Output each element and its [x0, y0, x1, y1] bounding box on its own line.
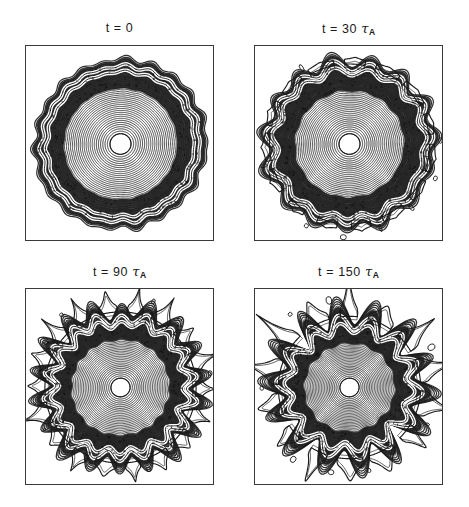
title-prefix: t =: [93, 265, 113, 279]
panel-title-panel-t0: t = 0: [25, 22, 214, 35]
contour-canvas-panel-t0: [26, 46, 214, 241]
contour-figure: t = 0t = 30 τAt = 90 τAt = 150 τA: [0, 0, 469, 507]
contour-canvas-panel-t150: [255, 289, 443, 485]
inner-core-panel-t90: [111, 378, 130, 397]
plot-frame-panel-t150: [254, 288, 443, 485]
title-prefix: t =: [106, 21, 126, 35]
title-prefix: t =: [322, 22, 342, 36]
inner-core-panel-t150: [340, 378, 359, 397]
title-unit-subscript: A: [140, 270, 146, 280]
title-unit-tau: τ: [132, 264, 140, 279]
title-unit-tau: τ: [361, 21, 369, 36]
inner-core-panel-t0: [110, 134, 131, 155]
contour-canvas-panel-t30: [255, 46, 443, 241]
panel-title-panel-t90: t = 90 τA: [25, 265, 214, 280]
title-unit-subscript: A: [369, 27, 375, 37]
title-value: 150: [338, 265, 361, 279]
title-unit-subscript: A: [373, 270, 379, 280]
plot-frame-panel-t30: [254, 45, 443, 241]
title-value: 0: [126, 21, 134, 35]
inner-core-panel-t30: [339, 134, 360, 155]
plot-frame-panel-t0: [25, 45, 214, 241]
contour-canvas-panel-t90: [26, 289, 214, 485]
title-prefix: t =: [318, 265, 338, 279]
title-unit-tau: τ: [365, 264, 373, 279]
panel-title-panel-t30: t = 30 τA: [254, 22, 443, 37]
title-value: 30: [342, 22, 357, 36]
plot-frame-panel-t90: [25, 288, 214, 485]
title-value: 90: [113, 265, 128, 279]
panel-title-panel-t150: t = 150 τA: [254, 265, 443, 280]
